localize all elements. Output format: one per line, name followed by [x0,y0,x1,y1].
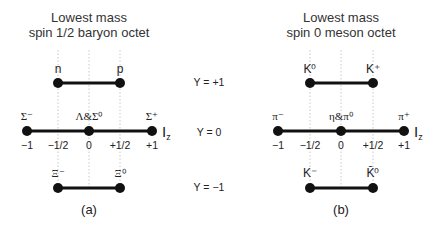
tick-zero: 0 [86,139,92,151]
sigma-plus-label: Σ⁺ [146,110,158,122]
pi-plus-label: π⁺ [398,110,410,122]
baryon-octet-diagram: Lowest mass spin 1/2 baryon octet n p Σ⁻… [21,10,171,217]
caption-b: (b) [333,202,349,217]
meson-title-line2: spin 0 meson octet [286,25,396,40]
caption-a: (a) [81,202,97,217]
proton-dot [115,78,125,88]
y-minus-1-label: Y = −1 [194,181,225,193]
pi-minus-dot [273,126,283,136]
lambda-sigma0-dot [84,126,94,136]
tick-plus-half: +1/2 [363,139,384,151]
neutron-label: n [55,62,62,76]
tick-minus-1: −1 [21,139,33,151]
octet-diagrams: Lowest mass spin 1/2 baryon octet n p Σ⁻… [0,0,441,229]
tick-minus-1: −1 [272,139,284,151]
sigma-minus-label: Σ⁻ [21,110,33,122]
tick-minus-half: −1/2 [300,139,321,151]
iz-axis-label: Iz [414,123,423,142]
xi-zero-dot [115,183,125,193]
proton-label: p [117,62,124,76]
k0-dot [305,78,315,88]
k-plus-label: K⁺ [366,62,380,76]
k-minus-label: K⁻ [303,166,317,180]
eta-pi0-dot [336,126,346,136]
tick-minus-half: −1/2 [48,139,69,151]
tick-plus-1: +1 [146,139,158,151]
iz-axis-label: Iz [162,123,171,142]
tick-plus-half: +1/2 [110,139,131,151]
meson-octet-diagram: Lowest mass spin 0 meson octet K⁰ K⁺ π⁻ … [272,10,423,217]
xi-minus-label: Ξ⁻ [51,167,64,179]
k0-label: K⁰ [303,62,316,76]
k-plus-dot [368,78,378,88]
meson-title-line1: Lowest mass [303,10,379,25]
k-minus-dot [305,183,315,193]
hypercharge-labels: Y = +1 Y = 0 Y = −1 [194,76,225,193]
sigma-minus-dot [22,126,32,136]
baryon-title-line1: Lowest mass [51,10,127,25]
lambda-sigma0-label: Λ&Σ⁰ [76,110,104,122]
anti-k0-dot [368,183,378,193]
neutron-dot [53,78,63,88]
tick-zero: 0 [338,139,344,151]
tick-plus-1: +1 [398,139,410,151]
y-plus-1-label: Y = +1 [194,76,225,88]
anti-k0-label: K̄⁰ [366,166,379,180]
pi-plus-dot [399,126,409,136]
xi-minus-dot [53,183,63,193]
y-zero-label: Y = 0 [197,126,222,138]
eta-pi0-label: η&π⁰ [329,110,354,122]
sigma-plus-dot [147,126,157,136]
xi-zero-label: Ξ⁰ [114,167,126,179]
pi-minus-label: π⁻ [272,110,284,122]
baryon-title-line2: spin 1/2 baryon octet [29,25,150,40]
